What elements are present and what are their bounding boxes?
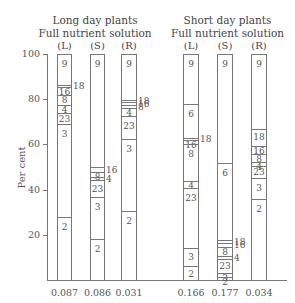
column-segment: 2 (58, 217, 71, 281)
y-tick (43, 99, 47, 100)
segment-label: 2 (218, 277, 232, 287)
column-footer-value: 0.086 (81, 287, 115, 298)
segment-label: 3 (91, 202, 104, 212)
segment-label: 3 (122, 144, 136, 154)
segment-label-outside: 4 (106, 174, 112, 184)
column-segment: 16 (252, 146, 266, 154)
column-segment: 9 (184, 55, 198, 104)
column-segment: 4 (58, 105, 71, 113)
column-segment: 8 (252, 154, 266, 162)
segment-label: 9 (122, 59, 136, 69)
column-segment: 23 (91, 180, 104, 197)
column-header: (L) (179, 40, 203, 51)
column-segment: 8 (184, 144, 198, 181)
segment-label: 9 (218, 59, 232, 69)
column-segment: 4 (122, 108, 136, 116)
column-header: (R) (117, 40, 141, 51)
segment-label-outside: 8 (138, 102, 144, 112)
segment-label: 23 (184, 193, 198, 203)
segment-label-outside: 16 (234, 240, 245, 250)
segment-label: 9 (58, 59, 71, 69)
column-segment: 23 (218, 259, 232, 273)
y-tick (43, 190, 47, 191)
segment-label: 6 (218, 168, 232, 178)
segment-label-outside: 18 (200, 134, 211, 144)
stacked-column: 961816842332 (217, 54, 233, 281)
segment-label: 2 (91, 244, 104, 254)
column-segment: 4 (184, 181, 198, 188)
y-tick-label: 20 (18, 229, 40, 240)
segment-label: 23 (58, 114, 71, 124)
segment-label: 8 (184, 149, 198, 159)
column-segment: 2 (218, 277, 232, 281)
column-segment: 6 (218, 163, 232, 240)
column-segment: 2 (184, 266, 198, 281)
column-segment: 3 (122, 139, 136, 211)
column-segment: 2 (91, 239, 104, 281)
column-segment: 3 (252, 178, 266, 199)
column-header: (S) (86, 40, 110, 51)
column-segment: 3 (91, 197, 104, 239)
segment-label: 2 (58, 222, 71, 232)
column-footer-value: 0.031 (112, 287, 146, 298)
y-tick (43, 144, 47, 145)
column-segment: 3 (58, 124, 71, 217)
segment-label: 8 (58, 95, 71, 105)
stacked-column: 91816842332 (57, 54, 72, 281)
segment-label: 23 (122, 121, 136, 131)
column-segment: 16 (58, 87, 71, 95)
segment-label: 6 (184, 109, 198, 119)
segment-label: 18 (252, 132, 266, 142)
column-segment: 3 (184, 248, 198, 266)
column-segment: 8 (58, 95, 71, 105)
column-footer-value: 0.034 (242, 287, 276, 298)
segment-label-outside: 4 (234, 253, 240, 263)
stacked-column: 91816842332 (251, 54, 267, 281)
group-title-short-day: Short day plants Full nutrient solution (160, 14, 295, 40)
group-title-long-day: Long day plants Full nutrient solution (30, 14, 160, 40)
column-header: (L) (53, 40, 77, 51)
column-segment: 9 (122, 55, 136, 100)
column-footer-value: 0.166 (174, 287, 208, 298)
column-segment: 18 (252, 129, 266, 146)
column-segment: 9 (91, 55, 104, 167)
segment-label: 2 (122, 216, 136, 226)
segment-label: 23 (218, 261, 232, 271)
column-segment: 23 (252, 166, 266, 178)
column-header: (S) (213, 40, 237, 51)
segment-label-outside: 18 (73, 81, 84, 91)
stacked-column: 916842332 (90, 54, 105, 281)
y-axis (47, 54, 48, 281)
column-segment: 23 (122, 116, 136, 139)
column-footer-value: 0.177 (208, 287, 242, 298)
segment-label: 3 (184, 252, 198, 262)
column-segment: 2 (122, 211, 136, 281)
column-segment: 8 (218, 247, 232, 256)
segment-label: 3 (58, 129, 71, 139)
column-segment: 23 (58, 113, 71, 124)
column-header: (R) (247, 40, 271, 51)
segment-label: 3 (252, 183, 266, 193)
segment-label: 9 (91, 59, 104, 69)
stacked-column: 91816842332 (121, 54, 137, 281)
column-footer-value: 0.087 (48, 287, 82, 298)
segment-label: 23 (252, 167, 266, 177)
y-tick-label: 100 (18, 48, 40, 59)
column-segment: 9 (58, 55, 71, 85)
segment-label: 9 (184, 59, 198, 69)
segment-label: 9 (252, 59, 266, 69)
y-tick (43, 54, 47, 55)
stacked-column: 961816842332 (183, 54, 199, 281)
y-tick-label: 40 (18, 184, 40, 195)
column-segment: 23 (184, 188, 198, 248)
column-segment: 6 (184, 104, 198, 138)
column-segment: 2 (252, 199, 266, 281)
segment-label: 2 (252, 204, 266, 214)
segment-label: 2 (184, 269, 198, 279)
column-segment: 9 (252, 55, 266, 129)
segment-label: 23 (91, 184, 104, 194)
y-tick-label: 60 (18, 138, 40, 149)
column-segment: 9 (218, 55, 232, 163)
y-tick (43, 235, 47, 236)
y-tick-label: 80 (18, 93, 40, 104)
